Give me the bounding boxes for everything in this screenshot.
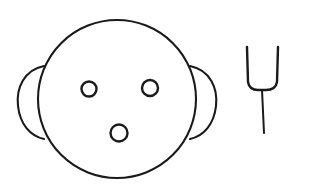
tuning-fork-prongs bbox=[247, 47, 278, 90]
left-eye-circle bbox=[82, 82, 97, 97]
tuning-fork-stem bbox=[262, 90, 264, 133]
head-outline-shape bbox=[38, 20, 196, 178]
right-eye-circle bbox=[142, 80, 158, 96]
drawing-canvas bbox=[0, 0, 309, 184]
mouth-circle bbox=[111, 125, 128, 142]
line-drawing bbox=[0, 0, 309, 184]
